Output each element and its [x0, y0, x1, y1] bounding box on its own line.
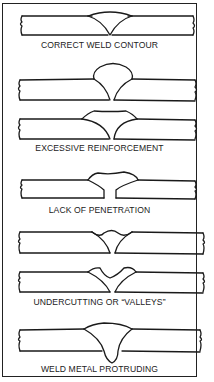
weld-bead: [94, 64, 133, 80]
label-lack-of-penetration: LACK OF PENETRATION: [2, 205, 197, 215]
label-undercutting: UNDERCUTTING OR “VALLEYS”: [2, 297, 197, 307]
plate-lack-of-penetration: [21, 172, 197, 199]
weld-bead: [84, 323, 132, 329]
label-correct-weld-contour: CORRECT WELD CONTOUR: [2, 40, 197, 50]
label-excessive-reinforcement: EXCESSIVE REINFORCEMENT: [2, 143, 197, 153]
plate-excessive-dome: [19, 64, 197, 102]
plate-excessive-flat: [19, 111, 197, 140]
plate-correct-weld: [21, 12, 195, 35]
weld-bead: [92, 231, 132, 236]
weld-bead: [88, 172, 138, 180]
label-weld-metal-protruding: WELD METAL PROTRUDING: [2, 364, 197, 374]
plate-undercut-1: [19, 231, 205, 255]
weld-diagrams: [0, 0, 214, 382]
weld-bead: [88, 12, 132, 16]
plate-weld-protruding: [19, 323, 202, 363]
plate-undercut-2: [19, 268, 205, 294]
weld-bead: [82, 111, 137, 119]
